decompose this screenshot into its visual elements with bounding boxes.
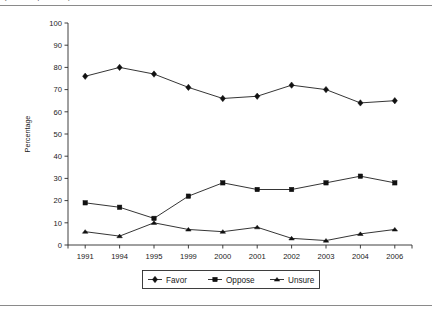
x-tick-label: 2004	[352, 252, 369, 261]
x-tick-label: 1995	[146, 252, 163, 261]
legend: FavorOpposeUnsure	[143, 271, 320, 289]
data-point-marker	[289, 187, 293, 191]
data-point-marker	[186, 84, 191, 90]
y-tick-label: 0	[58, 241, 62, 250]
y-tick-label: 60	[54, 108, 62, 117]
data-point-marker	[392, 227, 398, 231]
x-tick-label: 1991	[77, 252, 94, 261]
data-point-marker	[82, 230, 88, 234]
x-tick-label: 2002	[283, 252, 300, 261]
series-unsure	[82, 221, 397, 242]
data-point-marker	[151, 221, 157, 225]
series-line	[85, 223, 395, 241]
data-point-marker	[83, 201, 87, 205]
data-point-marker	[117, 64, 122, 70]
series-oppose	[83, 174, 397, 221]
data-point-marker	[221, 181, 225, 185]
data-point-marker	[254, 225, 260, 229]
data-point-marker	[289, 82, 294, 88]
y-axis-title: Percentage	[23, 116, 32, 153]
y-tick-label: 50	[54, 130, 62, 139]
legend-label-oppose: Oppose	[226, 276, 255, 285]
bottom-divider-rule	[0, 305, 432, 306]
y-tick-label: 80	[54, 63, 62, 72]
y-tick-label: 40	[54, 152, 62, 161]
x-tick-label: 2000	[214, 252, 231, 261]
figure-container: (cut off caption line) 01020304050607080…	[0, 0, 432, 313]
x-axis-group: 1991199419951999200020012002200320042006	[68, 245, 412, 261]
y-tick-label: 70	[54, 85, 62, 94]
x-tick-group: 1991199419951999200020012002200320042006	[68, 245, 412, 261]
data-point-marker	[220, 95, 225, 101]
legend-sample-marker	[213, 277, 217, 281]
line-chart: 0102030405060708090100 19911994199519992…	[0, 0, 432, 305]
data-point-marker	[83, 73, 88, 79]
data-point-marker	[255, 187, 259, 191]
y-axis-group: 0102030405060708090100	[49, 19, 68, 250]
x-tick-label: 2003	[318, 252, 335, 261]
data-point-marker	[393, 181, 397, 185]
legend-entries: FavorOpposeUnsure	[148, 276, 315, 285]
series-line	[85, 67, 395, 103]
y-tick-label: 20	[54, 196, 62, 205]
y-tick-label: 30	[54, 174, 62, 183]
data-point-marker	[358, 174, 362, 178]
legend-label-favor: Favor	[166, 276, 187, 285]
y-tick-label: 90	[54, 41, 62, 50]
x-tick-label: 1999	[180, 252, 197, 261]
data-point-marker	[255, 93, 260, 99]
data-point-marker	[152, 216, 156, 220]
y-tick-label: 10	[54, 219, 62, 228]
legend-label-unsure: Unsure	[288, 276, 315, 285]
y-tick-group: 0102030405060708090100	[49, 19, 68, 250]
x-tick-label: 2006	[386, 252, 403, 261]
data-point-marker	[392, 98, 397, 104]
series-group	[82, 64, 397, 242]
data-point-marker	[151, 71, 156, 77]
x-tick-label: 1994	[111, 252, 128, 261]
y-tick-label: 100	[49, 19, 62, 28]
data-point-marker	[323, 86, 328, 92]
data-point-marker	[186, 194, 190, 198]
data-point-marker	[324, 181, 328, 185]
x-tick-label: 2001	[249, 252, 266, 261]
data-point-marker	[117, 205, 121, 209]
data-point-marker	[358, 100, 363, 106]
series-favor	[83, 64, 398, 106]
series-line	[85, 176, 395, 218]
